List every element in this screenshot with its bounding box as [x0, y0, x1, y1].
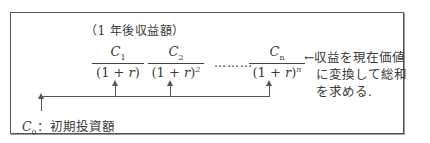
initial-investment-label: C0：初期投資額	[22, 116, 115, 137]
fraction-c1: C1 (1 + r)	[92, 44, 144, 80]
denominator: (1 + r)2	[148, 65, 204, 80]
fraction-bar	[148, 63, 204, 64]
arrow-up-icon	[112, 80, 118, 86]
denominator: (1 + r)n	[249, 65, 305, 80]
c0-stem	[41, 97, 42, 111]
arrow-up-icon	[167, 80, 173, 86]
timeline-horizontal	[41, 96, 269, 97]
fraction-c2: C2 (1 + r)2	[148, 44, 204, 80]
note-line-1: ←収益を現在価値	[304, 49, 407, 66]
arrow-up-icon	[38, 93, 44, 99]
denominator: (1 + r)	[92, 65, 144, 80]
arrow-up-icon	[266, 80, 272, 86]
numerator: C1	[92, 44, 144, 62]
top-label: （1 年後収益額）	[85, 21, 185, 38]
ellipsis: ………	[214, 56, 253, 70]
fraction-bar	[249, 63, 305, 64]
numerator: C2	[148, 44, 204, 62]
numerator: Cn	[249, 44, 305, 62]
note-line-3: を求める.	[304, 83, 407, 100]
fraction-cn: Cn (1 + r)n	[249, 44, 305, 80]
fraction-bar	[92, 63, 144, 64]
note-text: ←収益を現在価値 に変換して総和 を求める.	[304, 49, 407, 100]
note-line-2: に変換して総和	[304, 66, 407, 83]
